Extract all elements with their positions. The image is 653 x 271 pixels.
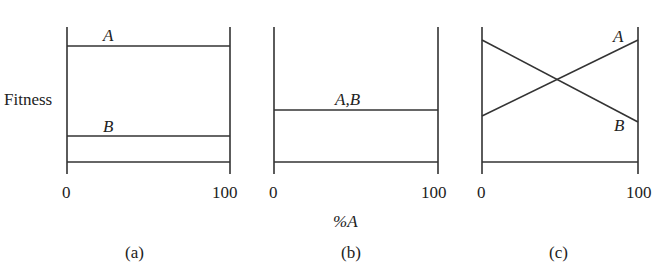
panel-c-series-a-label: A <box>613 28 623 45</box>
panel-b-tick-0: 0 <box>269 184 278 201</box>
y-axis-label: Fitness <box>4 91 52 108</box>
panel-c-series-b-label: B <box>614 117 624 134</box>
panel-b-tick-100: 100 <box>421 184 447 201</box>
panel-c-tick-0: 0 <box>477 184 486 201</box>
panel-a-series-b-label: B <box>103 118 113 135</box>
panel-a-tick-100: 100 <box>212 184 238 201</box>
panel-c-caption: (c) <box>549 244 568 261</box>
panel-b-caption: (b) <box>341 244 361 261</box>
panel-b-series-ab-label: A,B <box>335 91 360 108</box>
figure-canvas <box>0 0 653 271</box>
x-axis-label: %A <box>333 213 358 230</box>
panel-a-caption: (a) <box>125 244 144 261</box>
panel-c-tick-100: 100 <box>626 184 652 201</box>
panel-a-tick-0: 0 <box>62 184 71 201</box>
panel-c-line-b <box>482 40 638 122</box>
panel-a-series-a-label: A <box>103 27 113 44</box>
